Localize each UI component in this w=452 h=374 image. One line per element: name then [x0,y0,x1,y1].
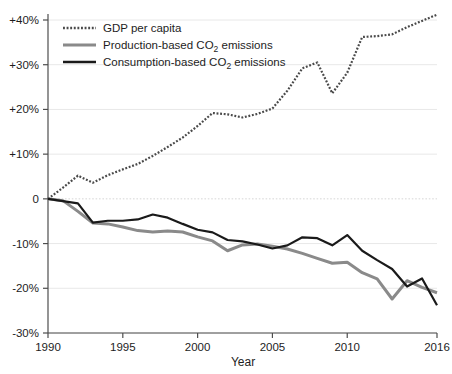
y-tick-label: +30% [9,59,39,71]
y-tick-label: 0 [33,193,39,205]
y-tick-label: -30% [12,327,39,339]
x-axis-title: Year [231,355,255,369]
x-tick-label: 2016 [424,341,450,353]
x-tick-label: 1990 [35,341,61,353]
y-tick-label: +40% [9,14,39,26]
x-tick-label: 1995 [110,341,136,353]
legend-label-0: GDP per capita [103,22,182,34]
y-tick-label: -20% [12,282,39,294]
y-tick-label: +20% [9,103,39,115]
x-tick-label: 2005 [260,341,286,353]
y-tick-label: -10% [12,238,39,250]
x-tick-label: 2010 [334,341,360,353]
y-tick-label: +10% [9,148,39,160]
chart-container: +40%+30%+20%+10%0-10%-20%-30% 1990199520… [0,0,452,374]
x-tick-label: 2000 [185,341,211,353]
line-chart: +40%+30%+20%+10%0-10%-20%-30% 1990199520… [0,0,452,374]
